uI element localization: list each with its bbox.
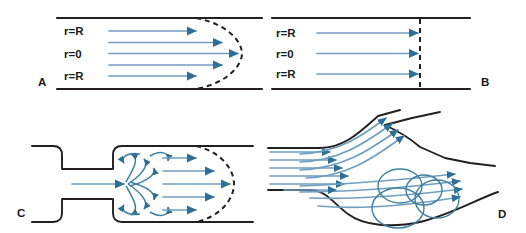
panel-c-streamlines: [163, 158, 230, 210]
panel-letter-d: D: [498, 208, 506, 220]
panel-c: C: [17, 146, 253, 222]
panel-b-label-r-equals-0: r=0: [276, 48, 294, 60]
panel-c-eddies: [123, 153, 168, 216]
vortex-center: [406, 175, 442, 205]
panel-b-streamlines: [317, 33, 418, 74]
panel-d: D: [268, 110, 506, 228]
flow-profiles-figure: r=R r=0 r=R A r=R r=0 r=R B: [0, 0, 526, 233]
panel-b-label-r-equals-R-top: r=R: [276, 27, 296, 39]
panel-c-top-wall: [32, 146, 253, 169]
panel-c-bottom-wall: [32, 199, 253, 222]
panel-d-inlet-streamlines: [270, 152, 348, 184]
panel-d-flow-divider: [385, 125, 495, 166]
panel-a-streamlines: [109, 31, 238, 76]
panel-letter-c: C: [17, 207, 25, 219]
panel-a-label-r-equals-0: r=0: [64, 48, 82, 60]
panel-letter-a: A: [38, 76, 46, 88]
panel-letter-b: B: [481, 76, 489, 88]
panel-b-label-r-equals-R-bottom: r=R: [276, 68, 296, 80]
panel-d-lower-outer-wall: [268, 190, 498, 225]
panel-d-divider-upper-edge: [385, 112, 440, 125]
panel-a-label-r-equals-R-bottom: r=R: [64, 70, 84, 82]
panel-a-label-r-equals-R-top: r=R: [64, 25, 84, 37]
panel-a: r=R r=0 r=R A: [38, 18, 262, 89]
panel-b: r=R r=0 r=R B: [272, 18, 489, 89]
